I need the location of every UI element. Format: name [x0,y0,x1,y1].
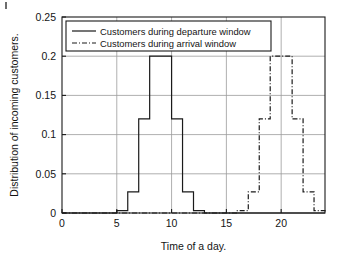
x-tick-label: 10 [166,217,178,229]
y-tick-label: 0.15 [36,89,57,101]
y-tick-label: 0.05 [36,168,57,180]
y-tick-labels: 00.050.10.150.20.25 [36,11,57,219]
y-tick-label: 0.2 [41,50,56,62]
distribution-line-chart: 05101520 00.050.10.150.20.25 Time of a d… [0,0,346,258]
y-tick-label: 0 [50,207,56,219]
x-tick-labels: 05101520 [59,217,287,229]
x-axis-title: Time of a day. [161,240,226,252]
y-tick-label: 0.1 [41,128,56,140]
legend-label-departure: Customers during departure window [100,26,251,37]
y-tick-label: 0.25 [36,11,57,23]
chart-figure: 05101520 00.050.10.150.20.25 Time of a d… [0,0,346,258]
x-tick-label: 5 [114,217,120,229]
x-tick-label: 15 [221,217,233,229]
chart-legend[interactable]: Customers during departure window Custom… [66,21,271,51]
y-axis-title: Distribution of incoming customers. [8,33,20,196]
x-tick-label: 20 [275,217,287,229]
legend-label-arrival: Customers during arrival window [100,38,236,49]
x-tick-label: 0 [59,217,65,229]
